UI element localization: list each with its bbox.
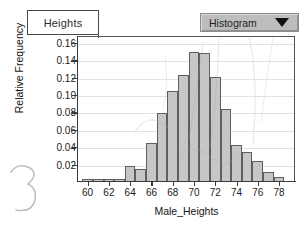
histogram-bar: [252, 161, 263, 182]
histogram-bar: [157, 113, 168, 182]
x-tick-mark: [173, 182, 174, 186]
y-axis-line: [77, 36, 78, 182]
histogram-window: Heights Histogram 60626466687072747678 R…: [0, 0, 308, 234]
y-tick-mark: [72, 165, 77, 166]
histogram-bar: [221, 109, 232, 182]
x-tick-mark: [130, 182, 131, 186]
x-axis-title: Male_Heights: [77, 205, 296, 217]
histogram-bar: [231, 145, 242, 182]
x-tick-mark: [258, 182, 259, 186]
x-tick-label: 66: [146, 187, 157, 198]
x-tick-mark: [194, 182, 195, 186]
histogram-bar: [125, 166, 136, 183]
heights-tab[interactable]: Heights: [27, 10, 99, 35]
histogram-bar: [242, 152, 253, 182]
x-tick-label: 74: [231, 187, 242, 198]
handwritten-mark: [6, 160, 42, 216]
histogram-bar: [199, 53, 210, 182]
y-tick-mark: [72, 95, 77, 96]
heights-tab-label: Heights: [44, 17, 83, 29]
x-tick-mark: [109, 182, 110, 186]
histogram-bar: [178, 75, 189, 182]
x-tick-label: 64: [125, 187, 136, 198]
y-axis-title: Relative Frequency: [13, 3, 25, 133]
y-tick-mark: [72, 147, 77, 148]
chart-type-dropdown-label: Histogram: [201, 17, 275, 29]
x-tick-mark: [151, 182, 152, 186]
y-tick-mark: [72, 112, 77, 113]
x-tick-label: 60: [82, 187, 93, 198]
x-tick-label: 76: [252, 187, 263, 198]
chart-type-dropdown[interactable]: Histogram: [200, 13, 299, 32]
x-tick-label: 78: [273, 187, 284, 198]
y-tick-mark: [72, 78, 77, 79]
tab-connector: [98, 34, 99, 38]
histogram-bar: [210, 77, 221, 182]
x-tick-label: 72: [210, 187, 221, 198]
x-tick-mark: [279, 182, 280, 186]
x-tick-label: 70: [188, 187, 199, 198]
x-tick-label: 68: [167, 187, 178, 198]
x-tick-label: 62: [103, 187, 114, 198]
x-tick-mark: [88, 182, 89, 186]
histogram-bar: [167, 91, 178, 182]
y-tick-mark: [72, 130, 77, 131]
y-tick-mark: [72, 43, 77, 44]
x-tick-mark: [237, 182, 238, 186]
x-tick-mark: [215, 182, 216, 186]
histogram-bars: [77, 36, 295, 182]
histogram-bar: [189, 52, 200, 182]
histogram-bar: [146, 143, 157, 182]
y-tick-mark: [72, 60, 77, 61]
triangle-down-icon: [275, 18, 289, 27]
